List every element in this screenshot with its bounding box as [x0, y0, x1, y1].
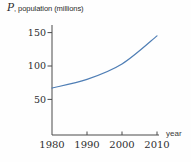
x-tick-label: 2000 [109, 139, 134, 150]
y-tick-label: 100 [28, 60, 46, 71]
y-tick-label: 50 [34, 94, 46, 105]
x-tick-label: 1990 [74, 139, 99, 150]
axes [52, 25, 159, 135]
population-growth-figure: P, population (millions) 501001501980199… [0, 0, 191, 162]
x-tick-label: 1980 [39, 139, 64, 150]
population-curve [52, 36, 157, 88]
plot-area: 501001501980199020002010 [0, 0, 191, 162]
x-axis-label: year [166, 129, 182, 138]
y-tick-label: 150 [28, 27, 46, 38]
x-tick-label: 2010 [144, 139, 169, 150]
